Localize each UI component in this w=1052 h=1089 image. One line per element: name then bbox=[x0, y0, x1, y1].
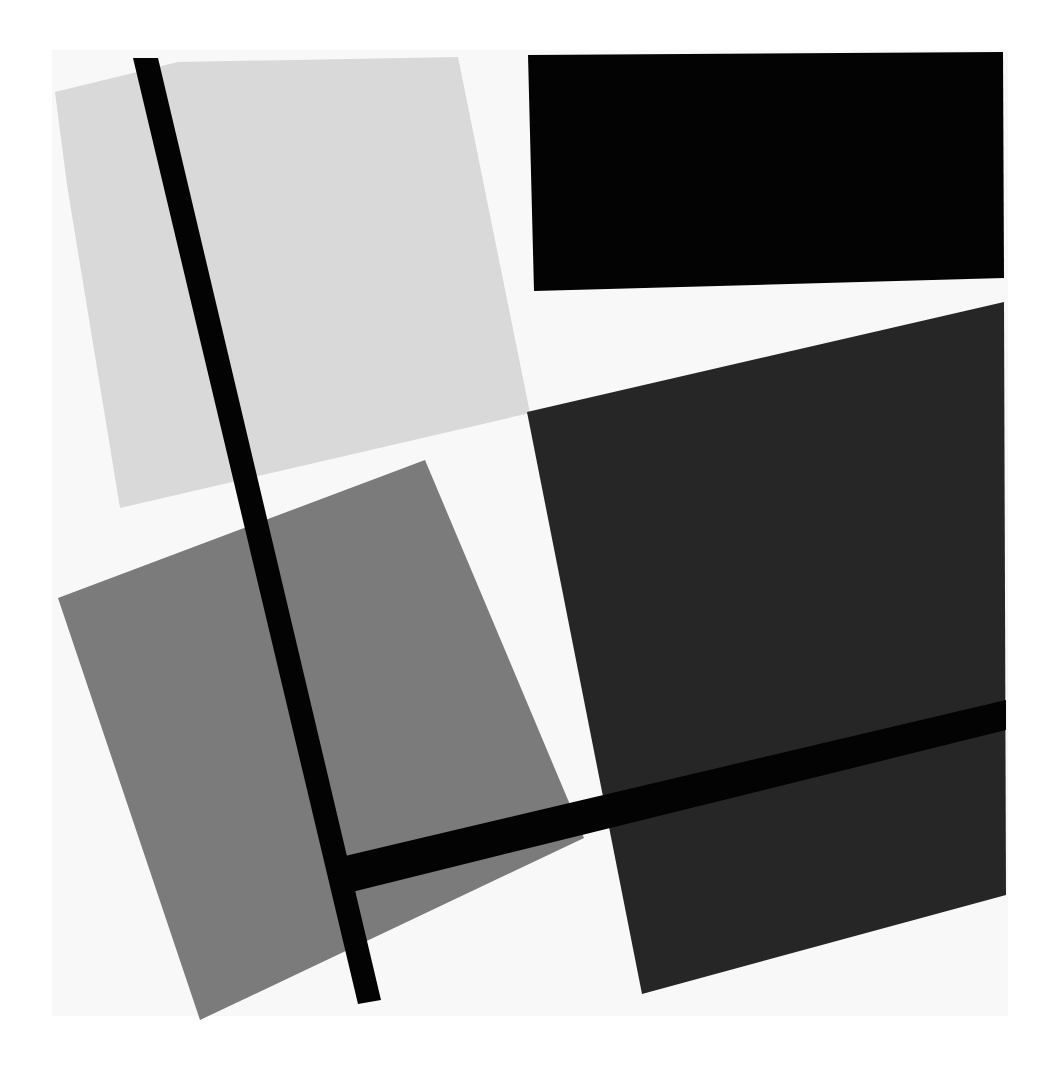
painting-canvas bbox=[0, 0, 1052, 1089]
black-rectangle bbox=[528, 52, 1004, 291]
abstract-painting bbox=[0, 0, 1052, 1089]
